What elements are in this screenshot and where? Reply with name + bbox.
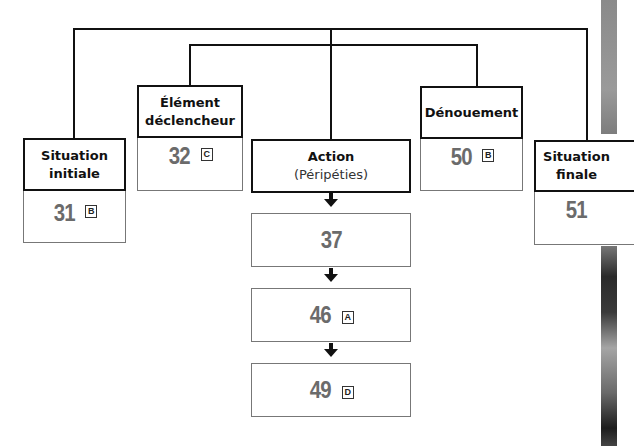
page-number: 32 [169,142,190,170]
level-badge: C [201,148,213,161]
stage-title: Action [308,148,355,166]
page-number: 50 [450,143,471,171]
outer-connector-right [586,28,588,141]
page-number: 31 [53,199,74,227]
action-step-2: 46 A [251,288,411,342]
center-connector [330,28,332,140]
stage-title: Situation [41,147,108,165]
stage-title: déclencheur [145,112,235,130]
arrow-down-icon [324,274,338,282]
stage-title: finale [556,166,597,184]
action-step-3: 49 D [251,363,411,417]
action-step-1: 37 [251,213,411,267]
stage-title: initiale [49,165,100,183]
stage-situation-finale-header: Situation finale [534,140,634,192]
stage-situation-initiale-value: 31 B [23,191,126,243]
stage-action-header: Action (Péripéties) [251,139,411,193]
stage-title: Dénouement [425,104,519,122]
stage-situation-finale-value: 51 [534,192,634,245]
page-number: 46 [310,301,331,329]
arrow-down-icon [324,349,338,357]
inner-connector-right [476,44,478,87]
stage-subtitle: (Péripéties) [294,166,368,184]
level-badge: B [482,149,494,162]
page-number: 51 [565,196,586,224]
stage-denouement-header: Dénouement [420,86,523,139]
page-number: 49 [310,376,331,404]
page-number: 37 [320,226,341,254]
stage-denouement-value: 50 B [420,139,523,191]
outer-connector-left [73,28,75,139]
stage-title: Élément [160,94,220,112]
stage-element-declencheur-value: 32 C [137,138,243,191]
level-badge: A [342,311,354,324]
level-badge: B [85,205,97,218]
inner-connector-left [189,44,191,86]
level-badge: D [342,386,354,399]
inner-connector-horizontal [189,44,478,46]
arrow-down-icon [324,199,338,207]
stage-title: Situation [543,148,610,166]
stage-element-declencheur-header: Élément déclencheur [137,85,243,138]
stage-situation-initiale-header: Situation initiale [23,138,126,191]
